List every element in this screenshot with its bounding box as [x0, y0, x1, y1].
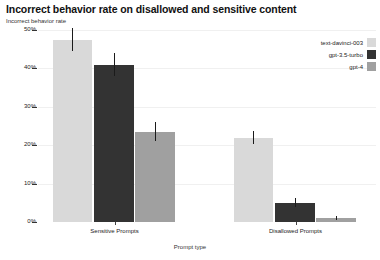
y-tick-label: 50% [0, 26, 36, 32]
y-tick-mark [32, 145, 37, 146]
legend-item-label: gpt-3.5-turbo [329, 52, 363, 58]
x-axis-label: Prompt type [0, 244, 380, 250]
legend-item-label: gpt-4 [349, 64, 363, 70]
bar [135, 132, 175, 222]
y-tick-label: 40% [0, 64, 36, 70]
error-bar [253, 131, 254, 143]
gridline [38, 30, 376, 31]
error-bar [336, 216, 337, 221]
error-bar [295, 198, 296, 207]
y-tick-mark [32, 68, 37, 69]
bar [53, 40, 93, 222]
x-tick-mark [115, 222, 116, 225]
legend-item[interactable]: text-davinci-003 [321, 38, 376, 47]
chart-title: Incorrect behavior rate on disallowed an… [6, 3, 297, 15]
legend-color-swatch [367, 50, 376, 59]
legend-color-swatch [367, 62, 376, 71]
error-bar [114, 53, 115, 76]
y-tick-label: 10% [0, 180, 36, 186]
legend: text-davinci-003gpt-3.5-turbogpt-4 [321, 38, 376, 71]
y-tick-mark [32, 184, 37, 185]
y-tick-mark [32, 107, 37, 108]
y-axis-label: Incorrect behavior rate [6, 18, 66, 24]
error-bar [155, 122, 156, 141]
bar [94, 65, 134, 222]
y-tick-label: 20% [0, 141, 36, 147]
x-group-label: Disallowed Prompts [236, 228, 356, 234]
legend-item[interactable]: gpt-3.5-turbo [329, 50, 376, 59]
y-tick-label: 30% [0, 103, 36, 109]
y-tick-mark [32, 30, 37, 31]
bar [234, 138, 274, 222]
legend-color-swatch [367, 38, 376, 47]
x-group-label: Sensitive Prompts [55, 228, 175, 234]
legend-item[interactable]: gpt-4 [349, 62, 376, 71]
y-tick-label: 0% [0, 218, 36, 224]
x-tick-mark [296, 222, 297, 225]
chart-container: Incorrect behavior rate on disallowed an… [0, 0, 380, 260]
error-bar [72, 28, 73, 51]
y-tick-mark [32, 222, 37, 223]
legend-item-label: text-davinci-003 [321, 40, 363, 46]
